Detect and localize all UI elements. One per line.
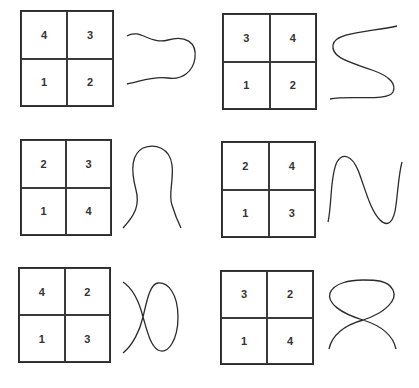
curve-6-loop bbox=[0, 0, 419, 388]
